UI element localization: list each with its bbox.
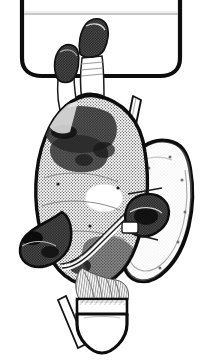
grip-buckle <box>122 222 138 233</box>
helmet <box>77 299 127 353</box>
knight-illustration <box>0 0 202 360</box>
illustration-canvas: Inverted knight in chainmail hanging bel… <box>0 0 202 360</box>
